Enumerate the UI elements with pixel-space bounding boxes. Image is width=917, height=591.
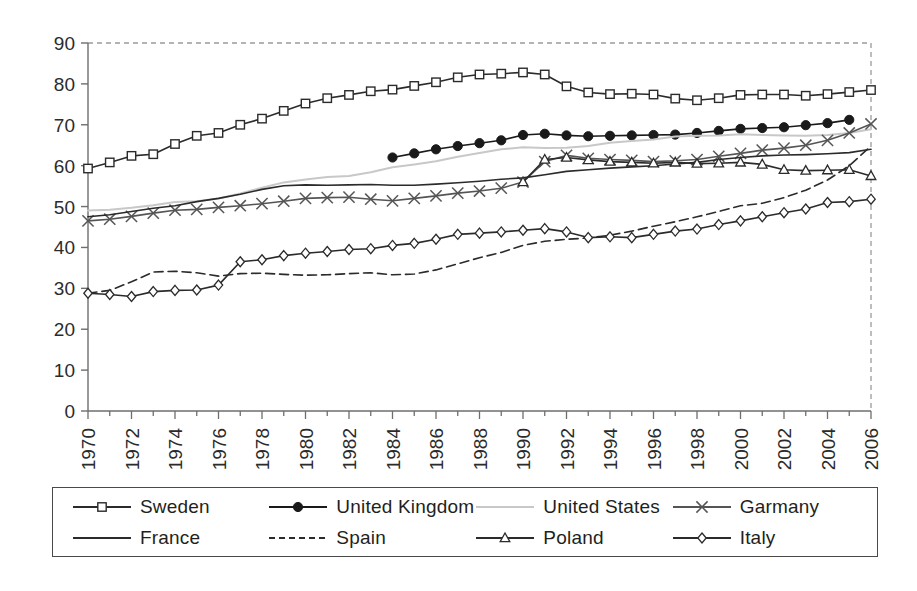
legend-item-italy[interactable]: Italy [671, 522, 867, 553]
svg-text:2004: 2004 [818, 428, 839, 471]
legend-label: Spain [336, 527, 386, 549]
x-axis-ticks [88, 411, 871, 419]
legend-label: Sweden [140, 496, 210, 518]
legend-item-garmany[interactable]: Garmany [671, 491, 867, 522]
series-italy [84, 194, 875, 301]
svg-text:90: 90 [54, 33, 75, 54]
legend-item-france[interactable]: France [71, 522, 267, 553]
legend-label: France [140, 527, 200, 549]
x-axis-labels: 1970197219741976197819801982198419861988… [78, 428, 882, 471]
chart-container: 0102030405060708090 19701972197419761978… [0, 0, 917, 591]
legend-label: Italy [740, 527, 776, 549]
series-poland [518, 152, 876, 185]
legend-swatch-open-triangle-icon [474, 529, 536, 547]
plot-frame [88, 43, 871, 411]
svg-text:30: 30 [54, 278, 75, 299]
chart-legend: SwedenUnited KingdomUnited StatesGarmany… [52, 487, 878, 557]
legend-swatch-filled-circle-icon [267, 498, 329, 516]
legend-swatch-none-icon [474, 498, 536, 516]
legend-grid: SwedenUnited KingdomUnited StatesGarmany… [53, 488, 877, 556]
svg-text:20: 20 [54, 319, 75, 340]
legend-item-united-kingdom[interactable]: United Kingdom [267, 491, 474, 522]
svg-text:60: 60 [54, 156, 75, 177]
legend-item-united-states[interactable]: United States [474, 491, 670, 522]
legend-label: Garmany [740, 496, 820, 518]
legend-item-sweden[interactable]: Sweden [71, 491, 267, 522]
svg-text:50: 50 [54, 197, 75, 218]
y-axis-ticks [81, 43, 88, 411]
legend-label: United Kingdom [336, 496, 474, 518]
svg-text:40: 40 [54, 237, 75, 258]
svg-text:1978: 1978 [252, 428, 273, 470]
svg-text:10: 10 [54, 360, 75, 381]
svg-text:1972: 1972 [122, 428, 143, 470]
svg-text:2006: 2006 [861, 428, 882, 470]
svg-text:1990: 1990 [513, 428, 534, 470]
svg-text:80: 80 [54, 74, 75, 95]
svg-text:1988: 1988 [470, 428, 491, 470]
series-france [88, 149, 871, 217]
line-chart-plot: 0102030405060708090 19701972197419761978… [0, 0, 917, 480]
svg-text:1976: 1976 [209, 428, 230, 470]
svg-text:1980: 1980 [296, 428, 317, 470]
legend-swatch-cross-icon [671, 498, 733, 516]
svg-text:1982: 1982 [339, 428, 360, 470]
legend-swatch-open-square-icon [71, 498, 133, 516]
svg-text:1996: 1996 [644, 428, 665, 470]
legend-item-poland[interactable]: Poland [474, 522, 670, 553]
svg-text:0: 0 [64, 401, 75, 422]
legend-label: Poland [543, 527, 603, 549]
svg-text:70: 70 [54, 115, 75, 136]
y-axis-labels: 0102030405060708090 [54, 33, 75, 422]
svg-text:1984: 1984 [383, 428, 404, 471]
svg-text:1994: 1994 [600, 428, 621, 471]
legend-item-spain[interactable]: Spain [267, 522, 474, 553]
legend-swatch-open-diamond-icon [671, 529, 733, 547]
svg-text:1986: 1986 [426, 428, 447, 470]
data-series-group [82, 68, 876, 301]
svg-text:2000: 2000 [731, 428, 752, 470]
legend-label: United States [543, 496, 660, 518]
legend-swatch-none-icon [267, 529, 329, 547]
svg-text:1970: 1970 [78, 428, 99, 470]
series-spain [88, 146, 871, 293]
svg-text:1992: 1992 [557, 428, 578, 470]
svg-text:2002: 2002 [774, 428, 795, 470]
svg-text:1998: 1998 [687, 428, 708, 470]
svg-text:1974: 1974 [165, 428, 186, 471]
legend-swatch-none-icon [71, 529, 133, 547]
